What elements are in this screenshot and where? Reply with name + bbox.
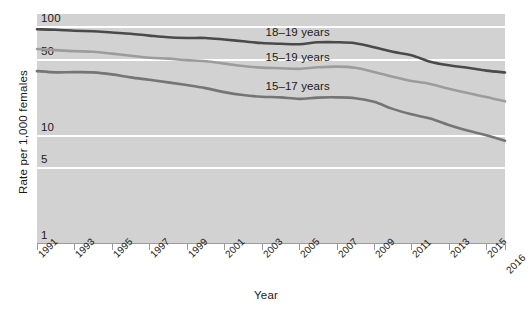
series-label-0: 18–19 years — [265, 26, 329, 38]
x-tick-2016 — [505, 243, 506, 250]
x-tick-label-2016: 2016 — [504, 252, 528, 276]
plot-area: 100501051 18–19 years15–19 years15–17 ye… — [37, 14, 505, 243]
series-label-2: 15–17 years — [265, 80, 329, 92]
y-axis-title: Rate per 1,000 females — [17, 70, 29, 194]
series-label-1: 15–19 years — [265, 51, 329, 63]
teen-birth-rate-line-chart: 100501051 18–19 years15–19 years15–17 ye… — [0, 0, 532, 320]
series-lines — [37, 14, 505, 243]
x-axis-title: Year — [0, 289, 532, 301]
